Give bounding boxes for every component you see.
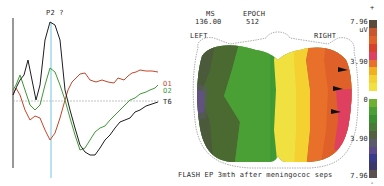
scale-tick-neg: 3.90 [340,136,368,143]
scale-tick-zero: 0 [340,97,368,104]
peak-label: P2 ? [46,10,64,17]
scale-tick-top: 7.96 [340,19,368,26]
plus-sign: + [370,5,374,12]
map-caption: FLASH EP 3mth after meningococ seps [178,172,333,179]
trace-o2 [13,68,158,150]
color-gradient-bar [369,20,377,178]
minus-sign: - [370,180,374,186]
trace-o1 [13,70,158,140]
trace-t6 [13,22,158,155]
waveform-plot [0,0,170,186]
scale-tick-bottom: 7.96 [340,173,368,180]
waveform-panel: P2 ? O1 O2 T6 [0,0,170,186]
color-scale: + 7.96 uV 3.90 0 3.90 7.96 - [340,0,384,186]
potential-field [190,40,360,170]
scale-unit: uV [340,27,368,34]
scale-tick-pos: 3.90 [340,59,368,66]
